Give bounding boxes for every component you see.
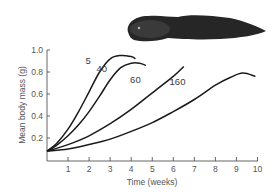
tadpole-head <box>130 20 170 38</box>
series-label-40: 40 <box>96 63 107 74</box>
x-tick-label: 1 <box>66 164 71 174</box>
series-labels: 54060160 <box>85 55 185 87</box>
x-tick-label: 2 <box>87 164 92 174</box>
x-axis-title: Time (weeks) <box>127 177 178 187</box>
x-tick-label: 9 <box>234 164 239 174</box>
curve-60 <box>47 67 184 152</box>
x-tick-label: 4 <box>129 164 134 174</box>
y-tick-label: 0.4 <box>31 111 43 121</box>
x-tick-label: 5 <box>150 164 155 174</box>
x-tick-label: 8 <box>213 164 218 174</box>
curves <box>47 55 255 151</box>
y-tick-label: 0.2 <box>31 133 43 143</box>
x-ticks: 12345678910 <box>66 157 263 174</box>
x-tick-label: 10 <box>253 164 263 174</box>
y-tick-label: 0.8 <box>31 67 43 77</box>
x-tick-label: 7 <box>192 164 197 174</box>
x-tick-label: 6 <box>171 164 176 174</box>
tadpole-illustration <box>128 15 266 41</box>
series-label-60: 60 <box>130 74 141 85</box>
x-tick-label: 3 <box>108 164 113 174</box>
series-label-5: 5 <box>85 55 90 66</box>
series-label-160: 160 <box>170 76 186 87</box>
curve-5 <box>47 55 135 151</box>
y-tick-label: 1.0 <box>31 45 43 55</box>
y-axis-title: Mean body mass (g) <box>17 66 27 144</box>
tadpole-eye <box>138 27 140 29</box>
y-tick-label: 0.6 <box>31 89 43 99</box>
growth-chart: 0.20.40.60.81.0 12345678910 Mean body ma… <box>0 0 279 196</box>
